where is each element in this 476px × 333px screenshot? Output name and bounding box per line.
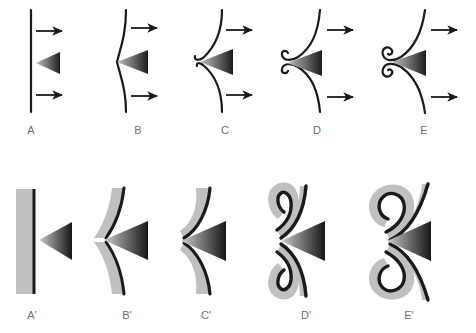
panel-label-D: D [313, 124, 321, 136]
panel-label-E-prime: E' [404, 309, 413, 321]
panel-label-A: A [27, 124, 35, 136]
membrane-band-A-prime [16, 189, 34, 294]
membrane-penetration-figure: A B [0, 0, 476, 333]
panel-label-D-prime: D' [301, 309, 311, 321]
figure-canvas: A B [0, 0, 476, 333]
panel-label-C: C [221, 124, 229, 136]
panel-label-A-prime: A' [27, 309, 36, 321]
panel-label-B: B [134, 124, 141, 136]
panel-label-E: E [420, 124, 427, 136]
panel-label-B-prime: B' [122, 309, 131, 321]
panel-label-C-prime: C' [201, 309, 211, 321]
